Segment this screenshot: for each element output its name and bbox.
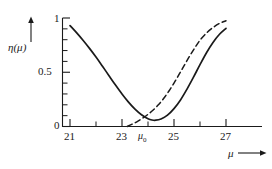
x-tick-label-21: 21 xyxy=(64,131,75,142)
y-tick-label-0_5: 0.5 xyxy=(38,66,52,77)
figure-container: η(μ) μ 1 0.5 0 21 23 25 27 μ0 xyxy=(0,0,272,169)
mu-zero-subscript: 0 xyxy=(143,136,147,144)
x-minor-ticks xyxy=(96,122,200,127)
x-axis-title: μ xyxy=(228,148,234,159)
right-arrow-icon xyxy=(238,150,267,156)
plot-canvas xyxy=(0,0,272,169)
x-axis-title-text: μ xyxy=(228,147,234,159)
x-tick-label-23: 23 xyxy=(116,131,127,142)
mu-zero-annotation: μ0 xyxy=(138,131,147,144)
y-axis-title: η(μ) xyxy=(8,42,26,53)
y-major-ticks xyxy=(63,18,71,127)
dashed-curve xyxy=(127,21,226,127)
y-axis-title-text: η(μ) xyxy=(8,41,26,53)
y-tick-label-1: 1 xyxy=(54,13,60,24)
solid-curve xyxy=(70,26,226,121)
up-arrow-icon xyxy=(28,17,34,43)
x-tick-label-27: 27 xyxy=(220,131,231,142)
x-tick-label-25: 25 xyxy=(168,131,179,142)
y-tick-label-0: 0 xyxy=(54,120,60,131)
